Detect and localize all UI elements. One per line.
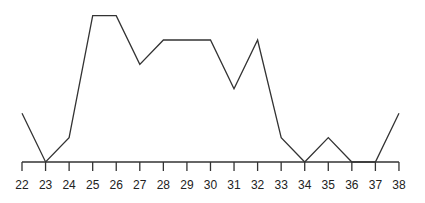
x-tick-label: 29 [180,178,194,192]
x-tick-label: 36 [345,178,359,192]
x-tick-label: 24 [62,178,76,192]
x-tick-label: 30 [204,178,218,192]
x-tick-label: 27 [133,178,147,192]
x-tick-label: 25 [86,178,100,192]
x-tick-label: 34 [298,178,312,192]
x-tick-label: 38 [392,178,406,192]
x-tick-label: 37 [369,178,383,192]
data-line [22,16,399,162]
x-tick-label: 31 [227,178,241,192]
x-tick-label: 32 [251,178,265,192]
x-tick-label: 35 [322,178,336,192]
x-tick-label: 28 [157,178,171,192]
x-tick-label: 22 [15,178,29,192]
frequency-polygon-chart: 2223242526272829303132333435363738 [0,0,425,203]
x-tick-label: 26 [110,178,124,192]
x-tick-label: 33 [274,178,288,192]
x-axis-tick-labels: 2223242526272829303132333435363738 [15,178,406,192]
x-tick-label: 23 [39,178,53,192]
x-axis [22,162,399,171]
